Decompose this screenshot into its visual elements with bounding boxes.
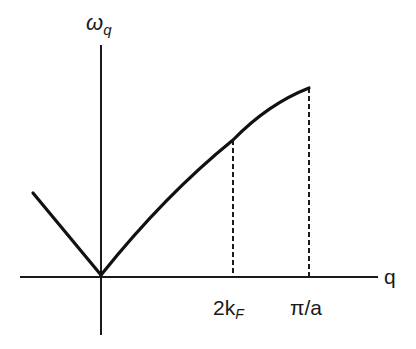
- x-axis-label: q: [384, 265, 396, 288]
- y-axis-label: ωq: [86, 10, 112, 38]
- dispersion-right-branch: [101, 88, 309, 275]
- tick-label-two-kf: 2kF: [213, 296, 245, 322]
- tick-label-pi-over-a: π/a: [290, 296, 322, 319]
- dispersion-diagram: ωq q 2kF π/a: [0, 0, 416, 349]
- dispersion-left-branch: [33, 193, 101, 275]
